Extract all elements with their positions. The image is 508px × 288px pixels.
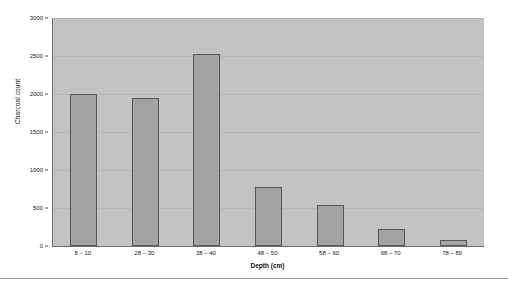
y-tick-label: 1000	[30, 167, 43, 173]
y-tick-label: 500	[33, 205, 43, 211]
bar	[378, 229, 405, 246]
y-tick-label: 0	[40, 243, 43, 249]
bar	[70, 94, 97, 246]
x-tick-label: 8 – 10	[74, 250, 91, 256]
y-tick-label: 2000	[30, 91, 43, 97]
x-tick-label: 58 – 60	[319, 250, 339, 256]
bar	[317, 205, 344, 246]
y-tick-mark	[45, 170, 48, 171]
x-axis-tick-labels: 8 – 1028 – 3038 – 4048 – 5058 – 6068 – 7…	[52, 250, 483, 262]
y-tick-mark	[45, 94, 48, 95]
x-tick-label: 28 – 30	[134, 250, 154, 256]
y-tick-mark	[45, 18, 48, 19]
footer-divider	[0, 278, 508, 279]
plot-area	[52, 18, 484, 247]
bar	[132, 98, 159, 246]
y-tick-label: 3000	[30, 15, 43, 21]
y-tick-label: 2500	[30, 53, 43, 59]
x-axis-title: Depth (cm)	[52, 262, 483, 269]
bar	[255, 187, 282, 246]
x-tick-label: 38 – 40	[196, 250, 216, 256]
y-tick-label: 1500	[30, 129, 43, 135]
y-tick-mark	[45, 132, 48, 133]
charcoal-count-bar-chart: Charcoal count 050010001500200025003000 …	[0, 0, 508, 272]
x-tick-label: 48 – 50	[257, 250, 277, 256]
x-tick-label: 68 – 70	[381, 250, 401, 256]
bar	[440, 240, 467, 246]
x-tick-label: 78 – 80	[442, 250, 462, 256]
y-tick-mark	[45, 56, 48, 57]
y-tick-mark	[45, 246, 48, 247]
y-axis-tick-labels: 050010001500200025003000	[0, 18, 48, 246]
y-tick-mark	[45, 208, 48, 209]
bar	[193, 54, 220, 246]
bar-series	[53, 18, 484, 246]
